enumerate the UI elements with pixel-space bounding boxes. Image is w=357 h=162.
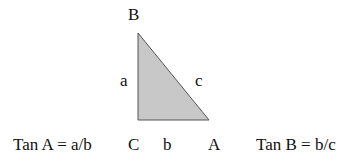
vertex-label-c: C [128, 136, 139, 153]
vertex-label-a: A [208, 136, 220, 153]
side-label-b: b [163, 136, 172, 153]
side-label-c: c [195, 72, 203, 89]
vertex-label-b: B [128, 6, 139, 23]
formula-tan-b: Tan B = b/c [256, 136, 336, 153]
formula-tan-a: Tan A = a/b [13, 136, 92, 153]
side-label-a: a [120, 72, 128, 89]
